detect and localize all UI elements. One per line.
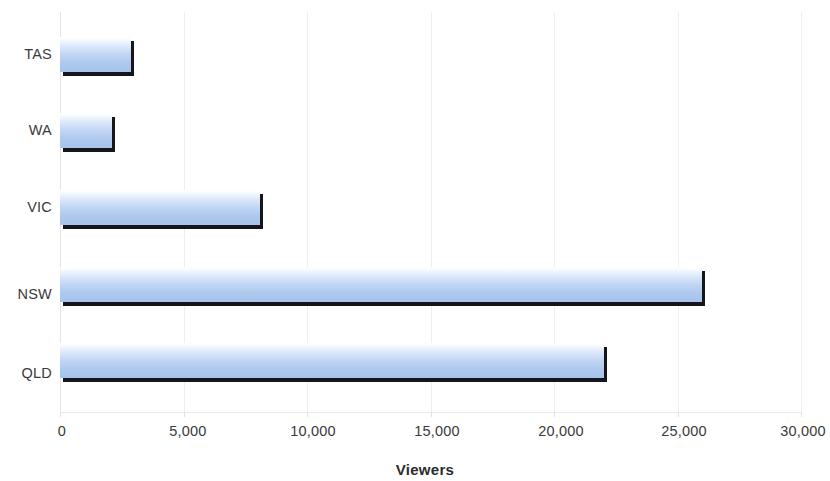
x-label-15000: 15,000	[414, 423, 460, 439]
y-label-wa: WA	[0, 122, 52, 138]
bar-fill	[60, 190, 260, 225]
y-label-qld: QLD	[0, 365, 52, 381]
y-label-vic: VIC	[0, 199, 52, 215]
x-axis-title: Viewers	[0, 461, 830, 478]
bar-fill	[60, 343, 604, 378]
bar-fill	[60, 267, 702, 302]
bar-fill	[60, 113, 112, 148]
x-label-0: 0	[58, 423, 66, 439]
y-label-nsw: NSW	[0, 286, 52, 302]
bar-wa	[60, 113, 112, 148]
tickmark-25000	[678, 412, 679, 417]
bar-chart: TAS WA VIC NSW QLD 0 5,000 10,000 15,000…	[0, 0, 830, 481]
x-axis-title-text: Viewers	[396, 461, 455, 478]
x-label-20000: 20,000	[538, 423, 584, 439]
tickmark-5000	[184, 412, 185, 417]
tickmark-30000	[801, 412, 802, 417]
bar-qld	[60, 343, 604, 378]
y-axis-labels: TAS WA VIC NSW QLD	[0, 0, 52, 440]
tickmark-20000	[554, 412, 555, 417]
bar-vic	[60, 190, 260, 225]
gridline-30000	[801, 12, 802, 412]
bar-nsw	[60, 267, 702, 302]
x-label-10000: 10,000	[290, 423, 336, 439]
x-label-25000: 25,000	[661, 423, 707, 439]
bar-tas	[60, 37, 131, 72]
plot-area	[60, 12, 802, 412]
tickmark-15000	[431, 412, 432, 417]
y-label-tas: TAS	[0, 46, 52, 62]
bar-fill	[60, 37, 131, 72]
x-label-30000: 30,000	[780, 423, 826, 439]
tickmark-0	[60, 412, 61, 417]
tickmark-10000	[307, 412, 308, 417]
gridline-25000	[678, 12, 679, 412]
x-label-5000: 5,000	[169, 423, 206, 439]
